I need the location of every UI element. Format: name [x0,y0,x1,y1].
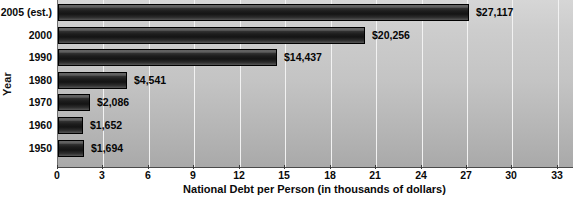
x-tick-label-27: 27 [460,169,472,181]
value-label-2000: $20,256 [372,30,410,41]
gridline-30 [512,0,513,167]
x-tick-label-18: 18 [324,169,336,181]
x-tick-label-12: 12 [233,169,245,181]
gridline-33 [558,0,559,167]
x-tick-label-33: 33 [551,169,563,181]
plot-area: $27,117$20,256$14,437$4,541$2,086$1,652$… [57,0,573,168]
bar-2000 [58,27,365,44]
gridline-9 [194,0,195,167]
gridline-24 [422,0,423,167]
national-debt-per-person-bar-chart: Year 2005 (est.)200019901980197019601950… [0,0,585,210]
gridline-18 [331,0,332,167]
gridline-15 [285,0,286,167]
y-tick-label-1990: 1990 [29,52,52,63]
gridline-21 [376,0,377,167]
value-label-1960: $1,652 [90,120,122,131]
x-tick-label-21: 21 [369,169,381,181]
value-label-2005-est-: $27,117 [476,7,513,18]
y-tick-label-2000: 2000 [29,30,52,41]
value-label-1990: $14,437 [284,52,322,63]
x-tick-label-9: 9 [190,169,196,181]
bar-1980 [58,72,127,89]
y-axis-tick-labels: 2005 (est.)200019901980197019601950 [0,0,54,167]
x-tick-label-6: 6 [145,169,151,181]
y-tick-label-1960: 1960 [29,120,52,131]
bar-1950 [58,140,84,157]
value-label-1980: $4,541 [134,75,166,86]
x-tick-label-0: 0 [54,169,60,181]
y-tick-label-1970: 1970 [29,97,52,108]
bar-1990 [58,49,277,66]
y-tick-label-1950: 1950 [29,143,52,154]
y-tick-label-2005-est-: 2005 (est.) [1,7,52,18]
gridline-27 [467,0,468,167]
x-axis-tick-labels: 03691215182124273033 [57,169,572,183]
gridline-12 [240,0,241,167]
x-tick-label-24: 24 [415,169,427,181]
x-axis-title: National Debt per Person (in thousands o… [57,183,572,195]
x-tick-label-15: 15 [278,169,290,181]
value-label-1970: $2,086 [97,97,129,108]
bar-1970 [58,94,90,111]
bar-1960 [58,117,83,134]
y-tick-label-1980: 1980 [29,75,52,86]
bar-2005-est- [58,4,469,21]
x-tick-label-30: 30 [505,169,517,181]
value-label-1950: $1,694 [91,143,123,154]
x-tick-label-3: 3 [99,169,105,181]
